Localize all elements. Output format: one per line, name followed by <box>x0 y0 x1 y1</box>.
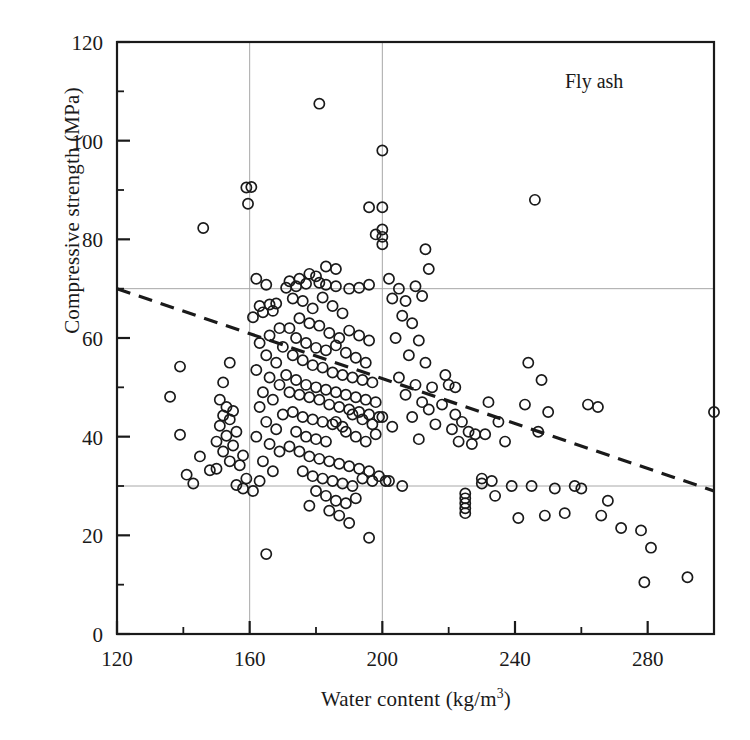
gridlines <box>117 42 714 634</box>
svg-text:120: 120 <box>101 647 133 671</box>
plot-frame <box>117 42 714 634</box>
scatter-chart-figure: 120160200240280020406080100120 Compressi… <box>0 0 750 740</box>
svg-text:80: 80 <box>82 228 103 252</box>
x-axis-title-exponent: 3 <box>497 686 504 701</box>
x-axis-title: Water content (kg/m3) <box>117 686 715 712</box>
plot-canvas: 120160200240280020406080100120 <box>0 0 750 740</box>
svg-text:240: 240 <box>499 647 531 671</box>
axis-ticks <box>117 42 714 634</box>
panel-label: Fly ash <box>565 70 623 93</box>
svg-text:120: 120 <box>72 31 104 55</box>
svg-text:60: 60 <box>82 327 103 351</box>
svg-text:200: 200 <box>367 647 399 671</box>
x-axis-title-main: Water content (kg/m <box>321 687 497 711</box>
data-points <box>165 99 719 588</box>
svg-text:20: 20 <box>82 524 103 548</box>
axis-tick-labels: 120160200240280020406080100120 <box>72 31 664 671</box>
svg-text:40: 40 <box>82 426 103 450</box>
svg-text:280: 280 <box>632 647 664 671</box>
svg-text:0: 0 <box>93 623 104 647</box>
svg-text:160: 160 <box>234 647 266 671</box>
y-axis-title: Compressive strength (MPa) <box>60 81 85 341</box>
x-axis-title-tail: ) <box>504 687 511 711</box>
